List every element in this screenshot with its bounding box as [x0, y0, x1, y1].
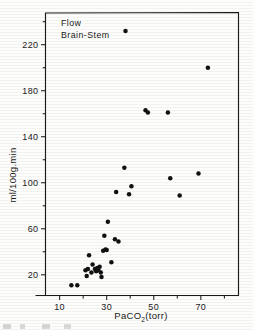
x-axis-title: PaCO2(torr) [114, 310, 167, 323]
y-tick-label: 220 [22, 40, 38, 50]
data-point [97, 264, 102, 269]
data-point [84, 274, 89, 279]
data-point [129, 184, 134, 189]
y-tick-label: 20 [28, 270, 39, 280]
data-point [166, 110, 171, 115]
scatter-plot: 206010014018022010305070 Flow Brain-Stem… [0, 0, 253, 330]
annotation-brain-stem: Brain-Stem [61, 30, 110, 40]
y-tick-label: 60 [28, 224, 39, 234]
data-point [146, 110, 151, 115]
x-tick-label: 30 [101, 302, 112, 312]
data-point [106, 220, 111, 225]
data-point [123, 29, 128, 34]
data-point [104, 248, 109, 253]
data-points [69, 29, 210, 288]
data-point [177, 193, 182, 198]
y-tick-label: 140 [22, 132, 38, 142]
figure-container: 206010014018022010305070 Flow Brain-Stem… [0, 0, 253, 330]
y-tick-label: 100 [22, 178, 38, 188]
annotation-flow: Flow [61, 18, 82, 28]
data-point [99, 275, 104, 280]
data-point [99, 270, 104, 275]
plot-frame [36, 13, 240, 296]
data-point [109, 260, 114, 265]
data-point [87, 253, 92, 257]
x-tick-label: 70 [195, 302, 206, 312]
data-point [114, 190, 119, 195]
data-point [75, 283, 80, 288]
axis-tick-labels: 206010014018022010305070 [22, 40, 206, 312]
y-tick-label: 180 [22, 86, 38, 96]
data-point [69, 283, 74, 288]
data-point [89, 270, 94, 275]
data-point [168, 176, 173, 181]
y-axis-title: ml/100g.min [7, 147, 18, 202]
data-point [206, 65, 211, 70]
data-point [116, 239, 121, 244]
data-point [127, 192, 132, 197]
data-point [102, 233, 107, 238]
data-point [90, 262, 95, 267]
data-point [196, 171, 201, 176]
data-point [122, 166, 127, 171]
axis-ticks [41, 22, 224, 300]
x-tick-label: 10 [54, 302, 65, 312]
data-point [86, 267, 91, 272]
